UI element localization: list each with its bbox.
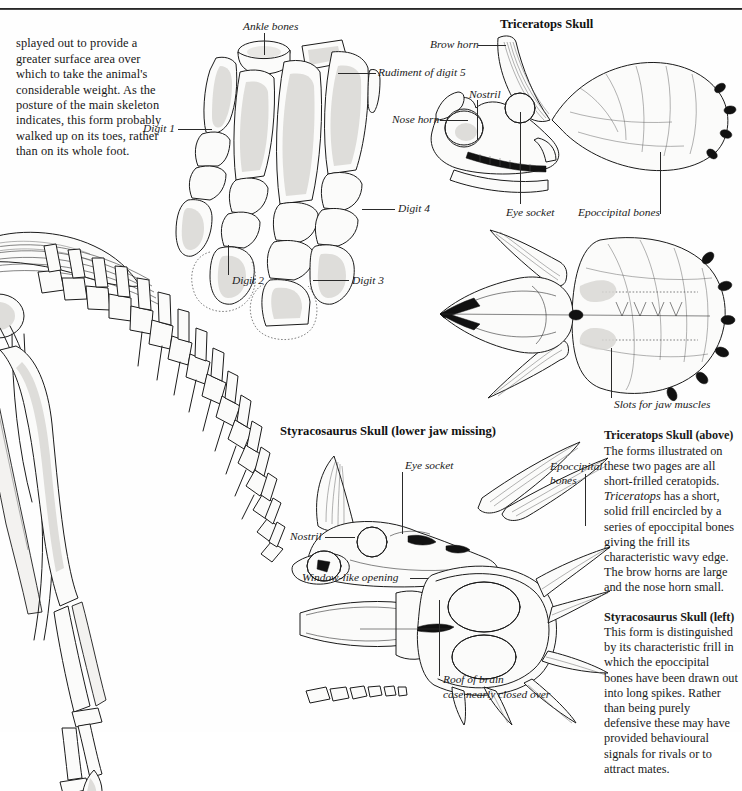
- caption-triceratops-body-2: has a short, solid frill encircled by a …: [604, 489, 734, 594]
- caption-styracosaurus: Styracosaurus Skull (left) This form is …: [604, 610, 738, 778]
- triceratops-label-eye-socket: Eye socket: [506, 206, 554, 219]
- page-top-rule: [0, 8, 742, 10]
- epoccipital-line-1: Epoccipital: [550, 460, 603, 472]
- caption-triceratops-body: The forms illustrated on these two pages…: [604, 444, 738, 596]
- styracosaurus-skull-title: Styracosaurus Skull (lower jaw missing): [280, 424, 496, 439]
- leader-digit-1: [178, 129, 212, 130]
- leader-brow-horn: [478, 45, 506, 46]
- leader-slots-jaw-muscles: [611, 348, 612, 398]
- caption-triceratops: Triceratops Skull (above) The forms illu…: [604, 428, 738, 596]
- triceratops-skull-side-view: [420, 28, 742, 208]
- leader-eye-socket-tri: [520, 112, 521, 204]
- caption-triceratops-heading: Triceratops Skull (above): [604, 428, 738, 443]
- roof-brain-line-1: Roof of brain: [443, 673, 504, 685]
- leader-ankle-bones: [264, 33, 265, 55]
- epoccipital-line-2: bones: [550, 474, 577, 486]
- foot-label-digit-1: Digit 1: [143, 122, 175, 135]
- roof-brain-line-2: case nearly closed over: [443, 688, 550, 700]
- leader-rudiment-digit-5: [338, 73, 376, 74]
- triceratops-label-nose-horn: Nose horn: [392, 113, 439, 126]
- triceratops-label-epoccipital-bones: Epoccipital bones: [578, 206, 660, 219]
- leader-digit-2: [228, 245, 229, 275]
- foot-label-digit-3: Digit 3: [352, 274, 384, 287]
- leader-digit-4: [362, 209, 395, 210]
- caption-triceratops-body-1: The forms illustrated on these two pages…: [604, 444, 723, 488]
- caption-styracosaurus-body: This form is distinguished by its charac…: [604, 625, 738, 777]
- leader-nostril-sty: [325, 537, 355, 538]
- foot-label-ankle-bones: Ankle bones: [243, 20, 298, 33]
- foot-label-digit-2: Digit 2: [232, 274, 264, 287]
- leader-eye-socket-sty: [402, 472, 403, 534]
- leader-nostril-tri: [477, 100, 478, 140]
- leader-nose-horn: [440, 120, 468, 121]
- leader-digit-3: [313, 280, 349, 281]
- triceratops-label-nostril: Nostril: [469, 88, 501, 101]
- triceratops-label-brow-horn: Brow horn: [430, 38, 479, 51]
- styracosaurus-label-nostril: Nostril: [290, 530, 322, 543]
- caption-triceratops-genus: Triceratops: [604, 489, 661, 503]
- styracosaurus-label-eye-socket: Eye socket: [405, 459, 453, 472]
- styracosaurus-label-roof-of-brain-case: Roof of brain case nearly closed over: [443, 672, 593, 701]
- leader-epoccipital-tri: [660, 152, 661, 214]
- leader-roof-of-brain-case: [439, 600, 440, 676]
- triceratops-label-slots-jaw-muscles: Slots for jaw muscles: [614, 398, 711, 411]
- triceratops-skull-top-view: [440, 228, 730, 408]
- caption-styracosaurus-heading: Styracosaurus Skull (left): [604, 610, 738, 625]
- leader-epoccipital-sty: [585, 474, 586, 526]
- caption-column: Triceratops Skull (above) The forms illu…: [604, 428, 738, 791]
